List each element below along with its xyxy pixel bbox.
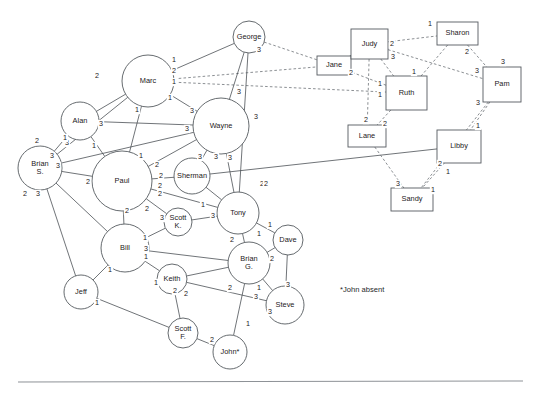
edge-weight-label: 1 [428, 19, 432, 28]
node-sandy[interactable]: Sandy [391, 188, 433, 211]
node-tony[interactable]: Tony [217, 192, 259, 234]
edge-weight-label: 3 [56, 161, 60, 170]
edge-bill-keith [145, 261, 159, 271]
edge-weight-label: 3 [99, 119, 103, 128]
node-scott_f[interactable]: ScottF. [168, 318, 198, 348]
node-label-tony: Tony [230, 208, 246, 217]
edge-weight-label: 3 [476, 98, 480, 107]
node-label-marc: Marc [140, 76, 157, 85]
edge-brian_g-steve [263, 279, 273, 291]
edge-brian_g-keith [187, 267, 229, 276]
edge-weight-label: 2 [159, 171, 163, 180]
edge-weight-label: 1 [172, 77, 176, 86]
node-jeff[interactable]: Jeff [64, 275, 98, 309]
edge-weight-label: 2 [383, 119, 387, 128]
edge-judy-ruth [381, 59, 394, 76]
node-label-dave: Dave [279, 235, 296, 244]
node-label-john: John* [221, 347, 240, 356]
edge-weight-label: 2 [230, 235, 234, 244]
edge-weight-label: 3 [198, 152, 202, 161]
edge-weight-label: 1 [95, 298, 99, 307]
edge-sherman-tony [206, 187, 222, 200]
edge-weight-label: 2 [23, 189, 27, 198]
edge-weight-label: 3 [501, 57, 505, 66]
edge-weight-label: 2 [155, 160, 159, 169]
edge-weight-label: 3 [254, 112, 258, 121]
edge-weight-label: 3 [237, 87, 241, 96]
node-brian_g[interactable]: BrianG. [228, 242, 270, 284]
node-scott_k[interactable]: ScottK. [164, 208, 192, 236]
edge-weight-label: 2 [125, 206, 129, 215]
edge-weight-label: 3 [228, 153, 232, 162]
node-label-sherman: Sherman [177, 171, 207, 180]
edge-marc-jane [174, 67, 317, 79]
edge-weight-label: 2 [349, 68, 353, 77]
node-ruth[interactable]: Ruth [386, 76, 427, 110]
node-dave[interactable]: Dave [273, 225, 303, 255]
node-libby[interactable]: Libby [437, 130, 481, 163]
node-wayne[interactable]: Wayne [193, 98, 249, 154]
node-label-keith: Keith [164, 274, 181, 283]
edge-brian_s-jeff [47, 189, 76, 276]
node-sharon[interactable]: Sharon [437, 22, 478, 45]
edge-weight-label: 1 [431, 185, 435, 194]
node-label-sharon: Sharon [446, 28, 470, 37]
edge-weight-label: 3 [185, 124, 189, 133]
node-label-ruth: Ruth [399, 88, 415, 97]
node-label-brian_g: G. [245, 262, 253, 271]
edge-weight-label: 2 [228, 283, 232, 292]
edge-weight-label: 1 [143, 233, 147, 242]
edge-weight-label: 3 [391, 52, 395, 61]
edge-weight-label: 1 [412, 67, 416, 76]
edge-weight-label: 2 [158, 189, 162, 198]
edge-bill-brian_g [149, 251, 228, 261]
node-judy[interactable]: Judy [351, 29, 388, 59]
edge-weight-label: 1 [63, 133, 67, 142]
edge-weight-label: 1 [257, 229, 261, 238]
edge-weight-label: 3 [214, 152, 218, 161]
edge-weight-label: 2 [86, 177, 90, 186]
edge-paul-brian_s [62, 171, 93, 176]
sociogram-canvas: GeorgeMarcAlanWayneBrianS.PaulShermanTon… [0, 0, 541, 396]
node-label-paul: Paul [115, 176, 130, 185]
node-label-judy: Judy [362, 39, 378, 48]
node-jane[interactable]: Jane [317, 56, 351, 75]
edge-weight-label: 2 [390, 39, 394, 48]
node-label-sandy: Sandy [402, 194, 423, 203]
edge-weight-label: 1 [378, 79, 382, 88]
edge-weight-label: 2 [184, 289, 188, 298]
node-label-scott_f: F. [180, 332, 186, 341]
node-lane[interactable]: Lane [348, 125, 386, 147]
footnote-john-absent: *John absent [340, 285, 385, 294]
edge-weight-label: 2 [264, 179, 268, 188]
node-label-george: George [237, 32, 262, 41]
edge-marc-george [172, 43, 234, 70]
node-steve[interactable]: Steve [266, 286, 304, 324]
edge-weight-label: 2 [465, 47, 469, 56]
edge-sharon-ruth [421, 45, 448, 76]
edge-sherman-libby [210, 149, 437, 174]
node-label-libby: Libby [450, 141, 468, 150]
edge-weight-label: 1 [139, 151, 143, 160]
edge-brian_g-dave [267, 248, 275, 253]
edge-scott_k-bill [147, 228, 166, 237]
edge-weight-label: 3 [475, 66, 479, 75]
node-pam[interactable]: Pam [483, 67, 521, 102]
edge-weight-label: 2 [173, 286, 177, 295]
node-label-scott_k: K. [175, 221, 182, 230]
edge-weight-label: 1 [172, 55, 176, 64]
node-label-wayne: Wayne [210, 121, 233, 130]
edge-weight-label: 1 [446, 167, 450, 176]
node-marc[interactable]: Marc [122, 55, 174, 107]
edge-jeff-scott_f [97, 298, 169, 327]
edge-weight-label: 3 [257, 45, 261, 54]
edge-tony-brian_g [243, 234, 245, 243]
edge-weight-label: 1 [268, 220, 272, 229]
edge-weight-label: 2 [35, 136, 39, 145]
edge-marc-ruth [174, 82, 386, 92]
node-label-alan: Alan [73, 116, 88, 125]
node-john[interactable]: John* [213, 335, 247, 369]
node-label-pam: Pam [494, 79, 509, 88]
edge-weight-label: 3 [286, 280, 290, 289]
node-sherman[interactable]: Sherman [174, 158, 210, 194]
